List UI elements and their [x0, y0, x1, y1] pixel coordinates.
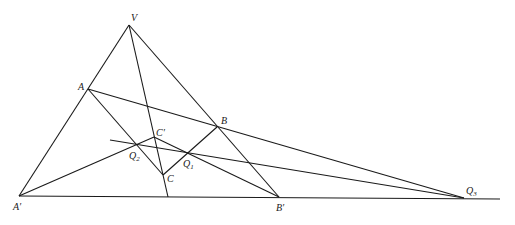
line-ApCp — [19, 137, 154, 196]
label-A: A — [77, 81, 85, 92]
label-Q2: Q2 — [129, 150, 140, 163]
label-Q3: Q3 — [466, 185, 477, 198]
line-AB-Q3 — [88, 89, 464, 198]
label-Ap: A′ — [12, 201, 22, 212]
label-C: C — [167, 173, 174, 184]
line-VA — [19, 25, 129, 196]
label-Bp: B′ — [276, 202, 285, 213]
label-V: V — [131, 12, 139, 23]
line-base — [19, 196, 500, 199]
label-Q1: Q1 — [183, 158, 194, 171]
line-AC — [88, 89, 163, 175]
label-B: B — [221, 115, 227, 126]
line-axis-Q — [110, 140, 464, 198]
desargues-diagram: V A B C′ C Q2 Q1 Q3 A′ B′ — [0, 0, 515, 225]
line-VB — [129, 25, 279, 197]
label-Cp: C′ — [156, 127, 166, 138]
